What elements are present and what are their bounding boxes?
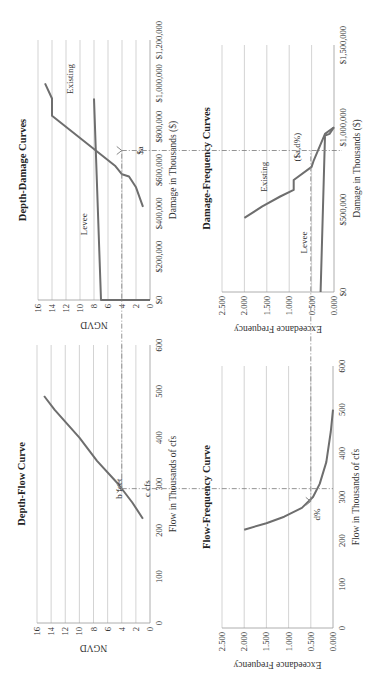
- x-tick-label: 0: [154, 621, 164, 625]
- y-tick-label: 16: [32, 627, 42, 636]
- chart-title: Depth-Flow Curve: [16, 442, 27, 526]
- series-levee: [321, 127, 334, 292]
- chart-title: Depth-Damage Curves: [17, 119, 28, 221]
- y-tick-label: 10: [74, 627, 84, 636]
- y-tick-label: 0.500: [306, 632, 316, 651]
- y-tick-label: 12: [60, 627, 70, 636]
- arrow-a-icon: [117, 147, 122, 155]
- annotation-label: Existing: [65, 64, 75, 95]
- x-tick-label: $1,000,000: [154, 64, 164, 102]
- y-tick-label: 2.500: [217, 632, 227, 651]
- x-tick-label: 400: [337, 447, 347, 460]
- y-tick-label: 1.500: [261, 632, 271, 651]
- x-tick-label: 600: [337, 360, 347, 373]
- y-tick-label: 12: [61, 304, 71, 313]
- y-tick-label: 14: [46, 626, 56, 635]
- annotation-label: d%: [312, 508, 322, 521]
- chart-title: Damage-Frequency Curves: [201, 107, 212, 230]
- y-tick-label: 10: [75, 304, 85, 313]
- figure-stage: Depth-Flow Curve024681012141601002003004…: [0, 0, 387, 695]
- y-axis-label: Exceedance Frequency: [234, 324, 322, 334]
- y-tick-label: 0: [145, 627, 155, 631]
- annotation-label: Existing: [259, 161, 269, 192]
- y-tick-label: 8: [89, 304, 99, 308]
- x-axis-label: Flow in Thousands of cfs: [351, 448, 361, 545]
- x-tick-label: 100: [154, 570, 164, 583]
- damage-frequency-chart: Damage-Frequency Curves0.0000.5001.0001.…: [201, 26, 363, 334]
- x-tick-label: $600,000: [154, 154, 164, 186]
- y-tick-label: 0.000: [328, 632, 338, 651]
- x-tick-label: 400: [154, 431, 164, 444]
- y-tick-label: 16: [33, 304, 43, 313]
- y-tick-label: 4: [117, 626, 127, 631]
- x-tick-label: $800,000: [154, 111, 164, 143]
- chart-title: Flow-Frequency Curve: [201, 445, 212, 549]
- x-tick-label: $0: [154, 296, 164, 305]
- x-axis-label: Flow in Thousands of cfs: [168, 435, 178, 532]
- y-tick-label: 2: [131, 627, 141, 631]
- y-tick-label: 2.500: [217, 296, 227, 315]
- depth-damage-chart: Depth-Damage Curves0246810121416$0$200,0…: [17, 21, 179, 330]
- depth-flow-chart: Depth-Flow Curve024681012141601002003004…: [16, 339, 178, 653]
- x-tick-label: 500: [337, 403, 347, 416]
- y-tick-label: 1.000: [284, 632, 294, 651]
- y-axis-label: NGVD: [80, 643, 108, 653]
- y-tick-label: 2.000: [239, 632, 249, 651]
- y-tick-label: 0: [145, 304, 155, 308]
- x-tick-label: $200,000: [154, 241, 164, 273]
- y-tick-label: 1.000: [284, 296, 294, 315]
- y-tick-label: 0.000: [329, 296, 339, 315]
- y-tick-label: 8: [89, 627, 99, 631]
- y-tick-label: 2: [131, 304, 141, 308]
- x-tick-label: 200: [154, 524, 164, 537]
- x-tick-label: $1,500,000: [338, 26, 348, 64]
- annotation-label: Levee: [79, 213, 89, 235]
- x-tick-label: 200: [337, 534, 347, 547]
- y-tick-label: 14: [47, 303, 57, 312]
- y-axis-label: NGVD: [80, 320, 108, 330]
- x-axis-label: Damage in Thousands ($): [352, 119, 363, 217]
- annotation-label: Levee: [299, 232, 309, 254]
- x-tick-label: 0: [337, 626, 347, 630]
- y-tick-label: 0.500: [307, 296, 317, 315]
- x-tick-label: $1,000,000: [338, 108, 348, 146]
- y-tick-label: 2.000: [239, 296, 249, 315]
- x-tick-label: $0: [338, 288, 348, 297]
- y-tick-label: 6: [103, 627, 113, 631]
- flow-frequency-chart: Flow-Frequency Curve0.0000.5001.0001.500…: [201, 360, 361, 670]
- x-axis-label: Damage in Thousands ($): [168, 121, 179, 219]
- x-tick-label: 600: [154, 339, 164, 352]
- x-tick-label: $500,000: [338, 194, 348, 226]
- x-tick-label: $1,200,000: [154, 21, 164, 59]
- y-tick-label: 6: [103, 304, 113, 308]
- x-tick-label: $400,000: [154, 197, 164, 229]
- four-quadrant-chart-figure: Depth-Flow Curve024681012141601002003004…: [0, 0, 387, 695]
- x-tick-label: 500: [154, 385, 164, 398]
- annotation-label: ($a,d%): [292, 133, 302, 162]
- x-tick-label: 100: [337, 578, 347, 591]
- x-tick-label: 300: [337, 491, 347, 504]
- y-axis-label: Exceedance Frequency: [233, 660, 321, 670]
- y-tick-label: 1.500: [262, 296, 272, 315]
